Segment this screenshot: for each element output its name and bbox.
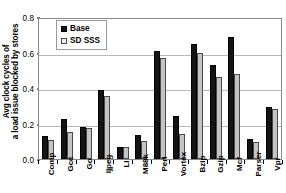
bar-group bbox=[151, 19, 170, 159]
x-tick-label: Gzip bbox=[216, 155, 225, 172]
bar-sd-sss[interactable] bbox=[197, 53, 203, 159]
bar-sd-sss[interactable] bbox=[272, 109, 278, 159]
x-label-cell: Vpr bbox=[263, 163, 282, 193]
x-tick-label: Ijpeg bbox=[104, 155, 113, 174]
x-label-cell: Vortex bbox=[169, 163, 188, 193]
x-label-cell: M88k bbox=[132, 163, 151, 193]
x-label-cell: Gcc bbox=[57, 163, 76, 193]
x-label-cell: Mcf bbox=[226, 163, 245, 193]
y-axis-title-line-1: Avg clock cycles of bbox=[3, 24, 12, 140]
bar-sd-sss[interactable] bbox=[160, 58, 166, 159]
bar-sd-sss[interactable] bbox=[86, 128, 92, 159]
bar-group bbox=[244, 19, 263, 159]
y-tick-label: 0.0 bbox=[12, 156, 37, 165]
y-tick-label: 0.4 bbox=[12, 85, 37, 94]
x-tick-label: Li bbox=[122, 160, 131, 167]
x-tick-mark bbox=[282, 160, 283, 164]
bar-sd-sss[interactable] bbox=[104, 96, 110, 159]
x-tick-label: Gcc bbox=[66, 156, 75, 171]
x-label-cell: Comp bbox=[38, 163, 57, 193]
x-tick-label: M88k bbox=[141, 154, 150, 174]
x-tick-label: Vortex bbox=[179, 152, 188, 176]
bar-sd-sss[interactable] bbox=[216, 77, 222, 159]
y-tick-label: 0.2 bbox=[12, 120, 37, 129]
x-tick-label: Vpr bbox=[273, 157, 282, 170]
x-label-cell: Go bbox=[76, 163, 95, 193]
legend: BaseSD SSS bbox=[56, 20, 107, 50]
x-label-cell: Li bbox=[113, 163, 132, 193]
bar-sd-sss[interactable] bbox=[123, 147, 129, 159]
bar-group bbox=[225, 19, 244, 159]
legend-item[interactable]: SD SSS bbox=[61, 36, 100, 46]
legend-swatch-icon bbox=[61, 26, 67, 32]
x-label-cell: Perl bbox=[151, 163, 170, 193]
x-tick-label: Mcf bbox=[235, 157, 244, 171]
legend-item[interactable]: Base bbox=[61, 24, 100, 34]
bar-chart: Avg clock cycles of a load issue blocked… bbox=[0, 0, 286, 193]
y-tick-label: 0.6 bbox=[12, 49, 37, 58]
x-label-cell: Ijpeg bbox=[94, 163, 113, 193]
x-axis-labels: CompGccGoIjpegLiM88kPerlVortexBzipGzipMc… bbox=[38, 163, 282, 193]
bar-group bbox=[132, 19, 151, 159]
x-tick-label: Bzip bbox=[198, 156, 207, 173]
bar-group bbox=[206, 19, 225, 159]
x-label-cell: Bzip bbox=[188, 163, 207, 193]
x-tick-label: Parser bbox=[254, 152, 263, 177]
x-tick-label: Go bbox=[85, 158, 94, 169]
bar-sd-sss[interactable] bbox=[234, 74, 240, 159]
legend-label: Base bbox=[70, 24, 90, 34]
bar-group bbox=[262, 19, 281, 159]
x-tick-label: Perl bbox=[160, 156, 169, 171]
bar-group bbox=[169, 19, 188, 159]
y-axis-ticks: 0.00.20.40.60.8 bbox=[12, 0, 37, 193]
x-label-cell: Parser bbox=[244, 163, 263, 193]
bar-group bbox=[113, 19, 132, 159]
x-label-cell: Gzip bbox=[207, 163, 226, 193]
y-tick-label: 0.8 bbox=[12, 14, 37, 23]
bar-group bbox=[188, 19, 207, 159]
bar-group bbox=[39, 19, 58, 159]
legend-label: SD SSS bbox=[70, 36, 100, 46]
bar-sd-sss[interactable] bbox=[67, 132, 73, 160]
x-tick-label: Comp bbox=[47, 153, 56, 176]
legend-swatch-icon bbox=[61, 38, 67, 44]
